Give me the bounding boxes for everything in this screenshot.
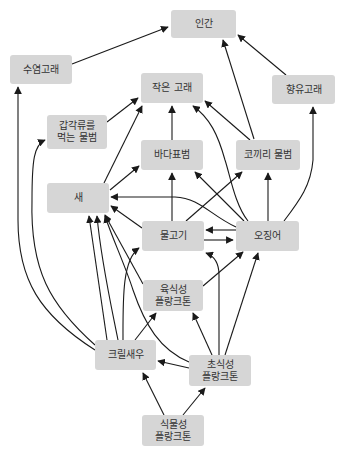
node-carnplank: 육식성 플랑크톤 [143, 280, 203, 311]
edge-krill-to-carnplank [135, 313, 156, 340]
node-label: 갑각류를 먹는 물범 [57, 120, 96, 144]
node-human: 인간 [171, 10, 236, 38]
edge-sperm-to-human [238, 35, 286, 75]
edge-herbplank-to-squid [225, 253, 258, 355]
node-label: 수염고래 [23, 64, 59, 76]
node-phytoplank: 식물성 플랑크톤 [142, 415, 204, 446]
node-label: 크릴새우 [108, 349, 144, 361]
edge-squid-to-leopard [195, 172, 244, 221]
node-squid: 오징어 [236, 221, 299, 251]
node-elephant: 코끼리 물범 [236, 140, 300, 170]
node-label: 향유고래 [286, 84, 322, 96]
edge-elephant-to-smallwhale [205, 101, 250, 140]
edge-baleen-to-human [72, 27, 168, 64]
edge-krill-to-bird [97, 216, 118, 340]
node-smallwhale: 작은 고래 [141, 73, 203, 103]
edge-herbplank-to-krill [158, 361, 189, 368]
node-fish: 물고기 [142, 221, 204, 251]
edge-smallwhale-to-human [223, 40, 254, 139]
node-label: 식물성 플랑크톤 [155, 419, 191, 443]
edge-phytoplank-to-herbplank [183, 388, 205, 415]
node-herbplank: 초식성 플랑크톤 [189, 355, 251, 386]
node-bird: 새 [47, 183, 109, 213]
edge-herbplank-to-fish [206, 253, 219, 355]
edge-krill-to-crabeater [32, 140, 95, 345]
edge-crabeater-to-smallwhale [107, 98, 138, 122]
edge-fish-to-bird [111, 206, 142, 228]
edge-phytoplank-to-krill [143, 373, 164, 415]
node-label: 작은 고래 [152, 82, 191, 94]
node-label: 육식성 플랑크톤 [155, 284, 191, 308]
edge-bird-to-leopard [110, 166, 139, 190]
edge-carnplank-to-squid [203, 252, 243, 286]
edge-herbplank-to-carnplank [193, 313, 212, 355]
node-sperm: 향유고래 [272, 75, 335, 104]
edge-krill-to-bird [89, 216, 107, 340]
node-label: 초식성 플랑크톤 [202, 359, 238, 383]
edge-bird-to-smallwhale [104, 106, 142, 183]
food-web-diagram: 인간수염고래향유고래작은 고래갑각류를 먹는 물범바다표범코끼리 물범새물고기오… [0, 0, 348, 457]
node-label: 코끼리 물범 [244, 149, 292, 161]
node-label: 바다표범 [154, 149, 190, 161]
node-krill: 크릴새우 [95, 340, 156, 370]
node-label: 오징어 [254, 230, 281, 242]
node-label: 물고기 [160, 230, 187, 242]
node-label: 인간 [195, 18, 213, 30]
node-label: 새 [74, 192, 83, 204]
node-crabeater: 갑각류를 먹는 물범 [47, 115, 107, 149]
node-leopard: 바다표범 [141, 140, 203, 170]
node-baleen: 수염고래 [10, 55, 72, 84]
